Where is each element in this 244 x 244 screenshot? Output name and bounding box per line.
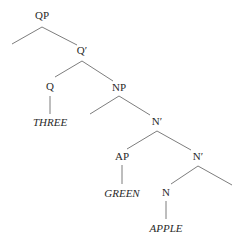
syntax-tree-diagram: QP Q′ Q THREE NP N′ AP GREEN N′ N APPLE bbox=[0, 0, 244, 244]
node-qp: QP bbox=[35, 9, 49, 21]
edge-qp-qbar bbox=[42, 27, 77, 45]
edge-qbar-np bbox=[82, 61, 113, 81]
edge-nbar2-complement bbox=[198, 166, 232, 185]
tree-nodes: QP Q′ Q THREE NP N′ AP GREEN N′ N APPLE bbox=[33, 9, 203, 234]
edge-np-spec bbox=[90, 96, 119, 114]
leaf-green: GREEN bbox=[104, 187, 140, 199]
edge-np-nbar1 bbox=[119, 96, 150, 115]
edge-qbar-q bbox=[55, 61, 82, 77]
edge-nbar1-ap bbox=[127, 131, 157, 149]
node-n: N bbox=[162, 186, 170, 198]
leaf-apple: APPLE bbox=[149, 222, 183, 234]
node-q: Q bbox=[46, 80, 54, 92]
node-n-bar-upper: N′ bbox=[152, 115, 162, 127]
node-q-bar: Q′ bbox=[77, 44, 87, 56]
leaf-three: THREE bbox=[33, 116, 68, 128]
edge-qp-spec bbox=[12, 27, 42, 44]
edge-nbar2-n bbox=[171, 166, 198, 184]
node-np: NP bbox=[112, 81, 126, 93]
node-ap: AP bbox=[115, 150, 129, 162]
node-n-bar-lower: N′ bbox=[193, 150, 203, 162]
edge-nbar1-nbar2 bbox=[157, 131, 191, 150]
